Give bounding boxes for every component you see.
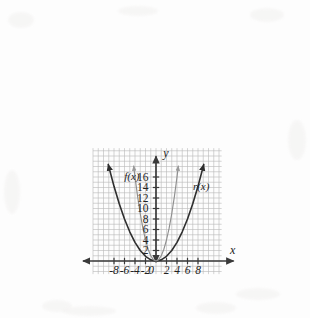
x-tick-label: 0 [148, 264, 154, 276]
x-tick-label: 8 [195, 264, 201, 276]
coordinate-plane: -8-6-4-202468246810121416xyf(x)r(x) [0, 0, 310, 318]
curve-label-rof-x: r(x) [193, 180, 210, 193]
x-tick-label: -4 [130, 264, 140, 276]
x-tick-label: 2 [164, 264, 170, 276]
y-tick-label: 4 [143, 234, 149, 246]
x-tick-label: 4 [174, 264, 180, 276]
y-tick-label: 10 [137, 202, 149, 214]
y-tick-label: 12 [137, 192, 149, 204]
x-tick-label: -8 [109, 264, 119, 276]
figure-background [0, 0, 310, 318]
y-tick-label: 2 [143, 244, 149, 256]
y-tick-label: 14 [137, 181, 149, 193]
y-tick-label: 8 [143, 213, 149, 225]
graph-figure: -8-6-4-202468246810121416xyf(x)r(x) [0, 0, 310, 318]
y-axis-name-label: y [162, 146, 169, 160]
x-tick-label: 6 [185, 264, 191, 276]
curve-label-fof-x: f(x) [124, 170, 140, 183]
x-tick-label: -6 [120, 264, 130, 276]
x-axis-name-label: x [229, 243, 236, 257]
y-tick-label: 6 [143, 223, 149, 235]
